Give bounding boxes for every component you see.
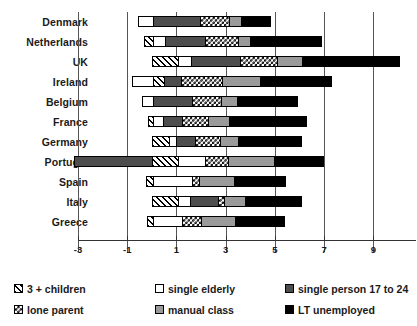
bar-segment[interactable] xyxy=(178,197,190,206)
bar-row[interactable] xyxy=(78,172,398,192)
bar-segment[interactable] xyxy=(274,157,323,166)
stacked-bar[interactable] xyxy=(152,136,302,147)
bar-segment[interactable] xyxy=(224,197,245,206)
bar-segment[interactable] xyxy=(143,97,153,106)
bar-row[interactable] xyxy=(78,132,398,152)
bar-segment[interactable] xyxy=(153,137,169,146)
legend-label: lone parent xyxy=(27,304,84,316)
bar-segment[interactable] xyxy=(200,17,229,26)
bar-segment[interactable] xyxy=(241,17,270,26)
bar-segment[interactable] xyxy=(205,37,238,46)
bar-segment[interactable] xyxy=(133,77,152,86)
bar-segment[interactable] xyxy=(181,77,222,86)
bar-segment[interactable] xyxy=(153,97,192,106)
bar-segment[interactable] xyxy=(152,157,178,166)
bar-row[interactable] xyxy=(78,52,398,72)
stacked-bar[interactable] xyxy=(152,56,401,67)
x-axis-tick-label: 5 xyxy=(272,244,277,255)
bar-segment[interactable] xyxy=(153,77,164,86)
legend-item[interactable]: 3 + children xyxy=(14,278,86,299)
bar-segment[interactable] xyxy=(250,37,321,46)
bar-segment[interactable] xyxy=(238,37,250,46)
bar-row[interactable] xyxy=(78,12,398,32)
stacked-bar[interactable] xyxy=(146,176,286,187)
bar-segment[interactable] xyxy=(195,137,219,146)
legend-item[interactable]: manual class xyxy=(155,299,235,320)
bar-segment[interactable] xyxy=(221,97,237,106)
bar-segment[interactable] xyxy=(176,137,195,146)
bar-segment[interactable] xyxy=(145,37,152,46)
legend-swatch-icon xyxy=(155,284,164,293)
legend-label: LT unemployed xyxy=(298,304,375,316)
legend-column: single person 17 to 24LT unemployed xyxy=(285,278,408,320)
stacked-bar[interactable] xyxy=(147,216,285,227)
bar-row[interactable] xyxy=(78,32,398,52)
legend-item[interactable]: lone parent xyxy=(14,299,86,320)
stacked-bar[interactable] xyxy=(152,196,302,207)
x-axis-tick xyxy=(324,236,325,241)
x-axis-tick-label: -3 xyxy=(74,244,82,255)
bar-segment[interactable] xyxy=(153,17,200,26)
bar-segment[interactable] xyxy=(228,157,274,166)
bar-segment[interactable] xyxy=(163,117,182,126)
bar-row[interactable] xyxy=(78,152,398,172)
bar-segment[interactable] xyxy=(75,157,152,166)
bar-segment[interactable] xyxy=(220,137,238,146)
stacked-bar[interactable] xyxy=(142,96,298,107)
bar-segment[interactable] xyxy=(222,77,260,86)
legend-swatch-icon xyxy=(155,305,164,314)
bar-segment[interactable] xyxy=(229,17,241,26)
bar-segment[interactable] xyxy=(191,57,240,66)
bar-segment[interactable] xyxy=(235,217,284,226)
bar-segment[interactable] xyxy=(153,117,163,126)
bar-segment[interactable] xyxy=(277,57,301,66)
legend: 3 + childrenlone parentsingle elderlyman… xyxy=(0,278,417,324)
bar-segment[interactable] xyxy=(192,177,199,186)
bar-segment[interactable] xyxy=(199,177,234,186)
bar-segment[interactable] xyxy=(192,97,221,106)
bar-segment[interactable] xyxy=(178,57,190,66)
bar-segment[interactable] xyxy=(164,77,181,86)
x-axis-tick xyxy=(176,236,177,241)
stacked-bar[interactable] xyxy=(138,16,271,27)
bar-row[interactable] xyxy=(78,92,398,112)
bar-segment[interactable] xyxy=(153,217,182,226)
bar-segment[interactable] xyxy=(139,17,152,26)
legend-item[interactable]: single elderly xyxy=(155,278,235,299)
bar-segment[interactable] xyxy=(153,177,192,186)
bar-segment[interactable] xyxy=(229,117,306,126)
bar-segment[interactable] xyxy=(153,197,179,206)
bar-segment[interactable] xyxy=(238,137,301,146)
legend-label: manual class xyxy=(168,304,234,316)
bar-segment[interactable] xyxy=(182,117,208,126)
bar-segment[interactable] xyxy=(169,137,176,146)
bar-segment[interactable] xyxy=(178,157,205,166)
bar-row[interactable] xyxy=(78,72,398,92)
stacked-bar[interactable] xyxy=(132,76,331,87)
bar-row[interactable] xyxy=(78,192,398,212)
bar-segment[interactable] xyxy=(240,57,278,66)
x-axis-tick xyxy=(373,236,374,241)
bar-segment[interactable] xyxy=(182,217,201,226)
legend-item[interactable]: LT unemployed xyxy=(285,299,408,320)
bar-row[interactable] xyxy=(78,112,398,132)
bar-segment[interactable] xyxy=(260,77,331,86)
bar-segment[interactable] xyxy=(205,157,228,166)
bar-segment[interactable] xyxy=(302,57,400,66)
bar-segment[interactable] xyxy=(153,37,165,46)
bar-segment[interactable] xyxy=(237,97,298,106)
bar-segment[interactable] xyxy=(165,37,205,46)
stacked-bar[interactable] xyxy=(144,36,321,47)
stacked-bar[interactable] xyxy=(74,156,324,167)
bar-segment[interactable] xyxy=(245,197,301,206)
bar-segment[interactable] xyxy=(234,177,285,186)
bar-segment[interactable] xyxy=(201,217,235,226)
bar-segment[interactable] xyxy=(153,57,179,66)
bar-segment[interactable] xyxy=(208,117,230,126)
stacked-bar[interactable] xyxy=(148,116,307,127)
bar-segment[interactable] xyxy=(190,197,218,206)
x-axis-tick xyxy=(78,236,79,241)
x-axis-tick xyxy=(275,236,276,241)
bar-row[interactable] xyxy=(78,212,398,232)
legend-item[interactable]: single person 17 to 24 xyxy=(285,278,408,299)
